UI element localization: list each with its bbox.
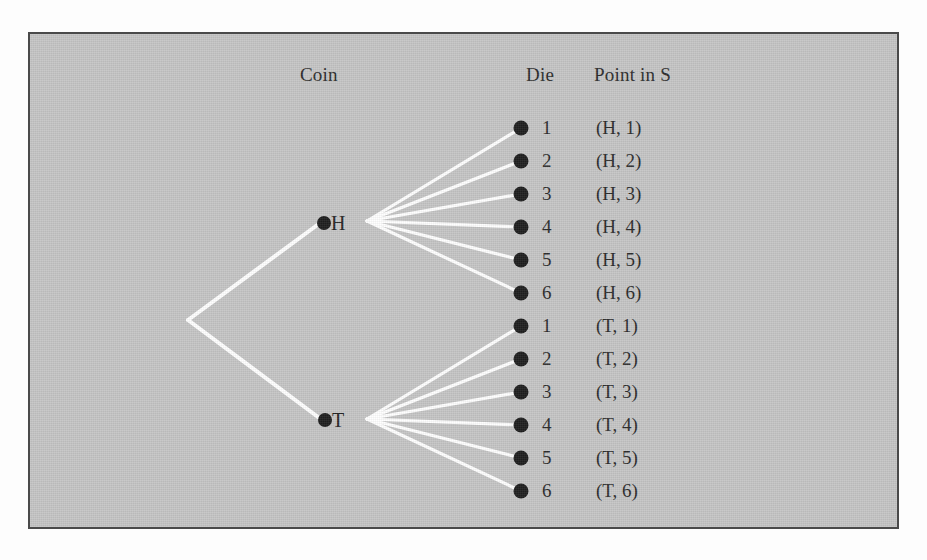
die-label-h-3: 3: [542, 183, 564, 205]
diagram-text-layer: Coin Die Point in S H T 1 2 3 4 5 6 1 2 …: [30, 34, 897, 527]
point-label-t-6: (T, 6): [596, 480, 682, 502]
coin-node-label-heads: H: [331, 212, 345, 235]
die-label-h-6: 6: [542, 282, 564, 304]
point-label-h-6: (H, 6): [596, 282, 682, 304]
point-label-h-4: (H, 4): [596, 216, 682, 238]
point-label-t-2: (T, 2): [596, 348, 682, 370]
die-label-h-1: 1: [542, 117, 564, 139]
die-label-t-2: 2: [542, 348, 564, 370]
point-label-t-3: (T, 3): [596, 381, 682, 403]
tree-diagram-panel: Coin Die Point in S H T 1 2 3 4 5 6 1 2 …: [28, 32, 899, 529]
column-header-coin: Coin: [300, 64, 338, 86]
die-label-t-5: 5: [542, 447, 564, 469]
page-canvas: Coin Die Point in S H T 1 2 3 4 5 6 1 2 …: [0, 0, 927, 560]
point-label-h-2: (H, 2): [596, 150, 682, 172]
die-label-h-5: 5: [542, 249, 564, 271]
point-label-t-4: (T, 4): [596, 414, 682, 436]
die-label-t-1: 1: [542, 315, 564, 337]
die-label-h-2: 2: [542, 150, 564, 172]
die-label-h-4: 4: [542, 216, 564, 238]
point-label-t-1: (T, 1): [596, 315, 682, 337]
point-label-h-1: (H, 1): [596, 117, 682, 139]
die-label-t-4: 4: [542, 414, 564, 436]
die-label-t-3: 3: [542, 381, 564, 403]
coin-node-label-tails: T: [332, 409, 344, 432]
point-label-h-5: (H, 5): [596, 249, 682, 271]
point-label-h-3: (H, 3): [596, 183, 682, 205]
column-header-point: Point in S: [594, 64, 671, 86]
die-label-t-6: 6: [542, 480, 564, 502]
point-label-t-5: (T, 5): [596, 447, 682, 469]
column-header-die: Die: [526, 64, 554, 86]
